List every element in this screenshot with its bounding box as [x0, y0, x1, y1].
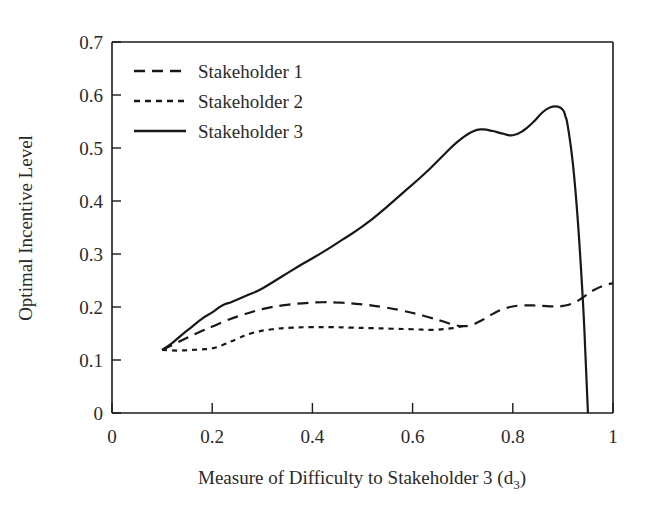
y-tick-label: 0.3	[79, 244, 103, 265]
x-tick-label: 0.2	[200, 426, 224, 447]
line-chart: 0 0.1 0.2 0.3 0.4 0.5 0.6 0.7 0 0.2 0.4 …	[0, 0, 665, 523]
y-axis-title: Optimal Incentive Level	[15, 135, 36, 321]
y-tick-label: 0.4	[79, 191, 103, 212]
y-tick-label: 0.1	[79, 350, 103, 371]
x-axis-title-main: Measure of Difficulty to Stakeholder 3 (…	[198, 467, 514, 489]
y-tick-label: 0.5	[79, 138, 103, 159]
series-lines	[162, 106, 613, 413]
legend-label-stakeholder-1: Stakeholder 1	[198, 61, 303, 82]
x-tick-label: 1	[608, 426, 618, 447]
x-axis-title: Measure of Difficulty to Stakeholder 3 (…	[198, 467, 526, 492]
y-tick-marks	[112, 42, 121, 413]
y-tick-label: 0	[94, 403, 104, 424]
x-tick-label: 0.4	[301, 426, 325, 447]
x-axis-title-close: )	[520, 467, 526, 489]
x-tick-labels: 0 0.2 0.4 0.6 0.8 1	[107, 426, 618, 447]
y-tick-label: 0.2	[79, 297, 103, 318]
x-tick-label: 0.8	[501, 426, 525, 447]
series-line-stakeholder-3	[162, 106, 588, 413]
y-tick-labels: 0 0.1 0.2 0.3 0.4 0.5 0.6 0.7	[79, 32, 103, 424]
y-tick-label: 0.6	[79, 85, 103, 106]
x-tick-marks	[112, 403, 613, 413]
legend-label-stakeholder-2: Stakeholder 2	[198, 91, 303, 112]
chart-legend: Stakeholder 1 Stakeholder 2 Stakeholder …	[134, 61, 303, 142]
y-tick-label: 0.7	[79, 32, 103, 53]
series-line-stakeholder-1	[162, 283, 613, 350]
legend-label-stakeholder-3: Stakeholder 3	[198, 121, 303, 142]
series-line-stakeholder-2	[162, 326, 463, 350]
chart-figure: 0 0.1 0.2 0.3 0.4 0.5 0.6 0.7 0 0.2 0.4 …	[0, 0, 665, 523]
x-tick-label: 0	[107, 426, 117, 447]
x-tick-label: 0.6	[401, 426, 425, 447]
